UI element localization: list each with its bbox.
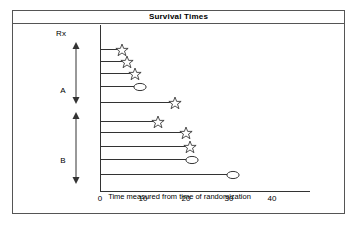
star-marker-icon-b2 [180, 126, 193, 139]
x-axis-caption: Time measured from time of randomization [13, 192, 346, 202]
y-axis-line [100, 25, 101, 192]
rx-axis-label: Rx [51, 29, 71, 39]
plot-area: Rx A B 010203040 [13, 24, 346, 215]
figure-frame: Survival Times Rx A B 010203040 Time mea… [12, 10, 345, 214]
ellipse-marker-icon-b5 [226, 170, 240, 179]
survival-bar-b5 [100, 174, 233, 175]
survival-bar-b1 [100, 121, 158, 122]
star-marker-icon-a3 [128, 67, 141, 80]
star-marker-icon-b3 [184, 140, 197, 153]
star-marker-icon-a5 [168, 96, 181, 109]
group-label-a: A [55, 86, 71, 96]
group-label-b: B [55, 156, 71, 166]
survival-bar-b2 [100, 132, 186, 133]
ellipse-marker-icon-b4 [185, 155, 199, 164]
group-a-range-arrow-icon [71, 42, 81, 104]
survival-bar-b4 [100, 159, 192, 160]
title-band: Survival Times [13, 11, 344, 24]
ellipse-marker-icon-a4 [133, 82, 147, 91]
group-b-range-arrow-icon [71, 112, 81, 184]
star-marker-icon-b1 [152, 115, 165, 128]
survival-bar-b3 [100, 146, 190, 147]
page-title: Survival Times [13, 12, 344, 22]
survival-bar-a5 [100, 102, 175, 103]
